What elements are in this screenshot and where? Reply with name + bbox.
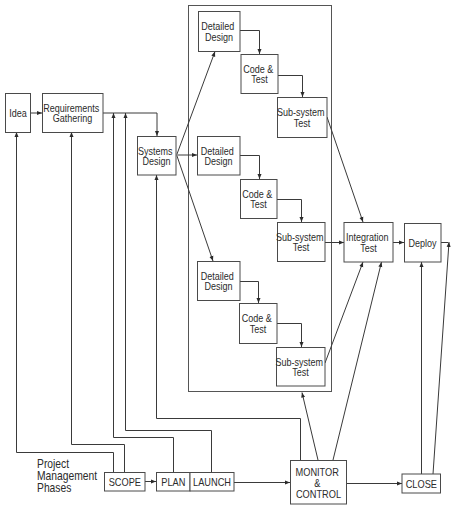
edge-close-to-deploy-output (433, 242, 449, 474)
node-subsystem-test-3: Sub-system Test (275, 348, 325, 387)
edge-scope-to-requirements (72, 132, 125, 472)
edge-monitor-to-systems-design (157, 175, 301, 460)
project-management-phases-label: Project Management Phases (37, 457, 100, 494)
node-subsystem-test-1: Sub-system Test (277, 98, 327, 138)
node-idea: Idea (6, 94, 31, 133)
node-code-test-3: Code & Test (240, 304, 278, 344)
edge-monitor-to-container (302, 393, 318, 461)
phase-monitor-control: MONITOR & CONTROL (291, 461, 347, 505)
edge-detailed-design-3-to-code-test-3 (240, 282, 259, 304)
node-code-test-1: Code & Test (241, 55, 278, 94)
scope-label: SCOPE (109, 476, 142, 488)
deploy-label: Deploy (408, 237, 436, 249)
edge-code-test-3-to-subsystem-test-3 (277, 324, 302, 348)
edge-code-test-1-to-subsystem-test-1 (278, 76, 303, 98)
project-lifecycle-diagram: Idea Requirements Gathering Systems Desi… (0, 0, 455, 508)
edge-code-test-2-to-subsystem-test-2 (277, 200, 302, 223)
node-integration-test: Integration Test (344, 223, 393, 263)
idea-label: Idea (9, 107, 27, 119)
edge-subsystem-test-1-to-integration (327, 117, 363, 222)
systems-design-label: Systems Design (138, 145, 175, 167)
detailed-design-3-label: Detailed Design (201, 270, 237, 292)
edge-requirements-to-systems-design (103, 113, 157, 136)
node-deploy: Deploy (405, 224, 442, 263)
phase-launch: LAUNCH (190, 473, 234, 492)
node-code-test-2: Code & Test (241, 180, 278, 219)
node-detailed-design-1: Detailed Design (199, 12, 241, 52)
node-systems-design: Systems Design (138, 137, 177, 176)
phase-scope: SCOPE (105, 473, 146, 492)
node-detailed-design-3: Detailed Design (198, 262, 241, 301)
edge-monitor-to-integration (333, 262, 382, 460)
node-requirements-gathering: Requirements Gathering (43, 94, 104, 133)
close-label: CLOSE (406, 478, 438, 490)
edge-detailed-design-2-to-code-test-2 (240, 156, 260, 180)
detailed-design-1-label: Detailed Design (201, 20, 237, 42)
launch-label: LAUNCH (193, 476, 231, 488)
phase-plan: PLAN (157, 473, 191, 492)
edge-detailed-design-1-to-code-test-1 (240, 31, 260, 55)
node-detailed-design-2: Detailed Design (198, 137, 241, 176)
phase-close: CLOSE (402, 474, 441, 493)
plan-label: PLAN (161, 476, 185, 488)
edge-subsystem-test-3-to-integration (325, 262, 363, 363)
edge-scope-to-idea (17, 132, 114, 472)
node-subsystem-test-2: Sub-system Test (276, 223, 326, 262)
detailed-design-2-label: Detailed Design (201, 145, 237, 167)
